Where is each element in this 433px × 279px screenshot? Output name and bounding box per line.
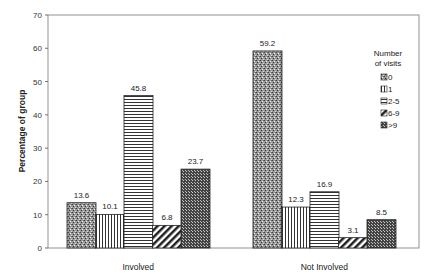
- legend-label: >9: [388, 121, 398, 130]
- y-tick-label: 60: [33, 44, 42, 53]
- data-label: 10.1: [102, 202, 118, 211]
- data-label: 59.2: [260, 39, 276, 48]
- legend-swatch: [381, 98, 387, 104]
- data-label: 3.1: [347, 226, 359, 235]
- legend-title: of visits: [375, 59, 402, 68]
- legend-label: 2-5: [388, 97, 400, 106]
- y-axis: 010203040506070: [33, 11, 48, 253]
- y-tick-label: 20: [33, 177, 42, 186]
- data-label: 6.8: [161, 213, 173, 222]
- bar-involved-6-9: [153, 225, 182, 248]
- y-tick-label: 40: [33, 111, 42, 120]
- bar-chart: 010203040506070 Percentage of group 13.6…: [0, 0, 433, 279]
- data-label: 45.8: [131, 84, 147, 93]
- data-label: 23.7: [188, 157, 204, 166]
- data-label: 13.6: [74, 191, 90, 200]
- bar-not-involved-6-9: [339, 238, 368, 248]
- legend-swatch: [381, 122, 387, 128]
- bar-involved->9: [181, 169, 210, 248]
- data-label: 8.5: [376, 208, 388, 217]
- y-tick-label: 70: [33, 11, 42, 20]
- legend-label: 6-9: [388, 109, 400, 118]
- legend-title: Number: [374, 49, 403, 58]
- bar-not-involved->9: [367, 220, 396, 248]
- legend-swatch: [381, 86, 387, 92]
- category-label: Not Involved: [301, 262, 349, 272]
- bar-involved-1: [96, 214, 125, 248]
- y-tick-label: 50: [33, 78, 42, 87]
- legend-label: 1: [388, 85, 393, 94]
- y-axis-label: Percentage of group: [17, 90, 27, 173]
- category-label: Involved: [122, 262, 154, 272]
- plot-frame: [48, 15, 419, 248]
- bar-not-involved-0: [253, 51, 282, 248]
- y-tick-label: 0: [38, 244, 43, 253]
- bar-not-involved-1: [282, 207, 311, 248]
- y-tick-label: 30: [33, 144, 42, 153]
- x-axis-categories: InvolvedNot Involved: [122, 262, 348, 272]
- legend-swatch: [381, 74, 387, 80]
- legend-label: 0: [388, 73, 393, 82]
- data-label: 12.3: [288, 195, 304, 204]
- bar-involved-2-5: [124, 96, 153, 248]
- legend-swatch: [381, 110, 387, 116]
- y-tick-label: 10: [33, 211, 42, 220]
- bar-not-involved-2-5: [310, 192, 339, 248]
- data-label: 16.9: [317, 180, 333, 189]
- bar-involved-0: [67, 203, 96, 248]
